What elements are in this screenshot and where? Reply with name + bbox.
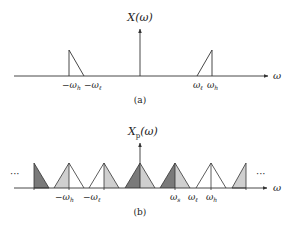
panel-a-x-label: ω [273, 70, 281, 81]
panel-b-tick-neg-wl: −ωℓ [83, 192, 101, 203]
panel-a: X(ω) ω −ωh −ωℓ ωℓ ωh (a) [14, 11, 281, 105]
panel-b-ellipsis-right: ··· [256, 168, 266, 179]
panel-a-tick-neg-wl: −ωℓ [84, 80, 102, 91]
panel-b-tick-wl: ωℓ [188, 192, 198, 203]
panel-b: ··· ··· Xp(ω) ω −ωh −ωℓ ωs ωℓ ωh (b) [10, 125, 281, 217]
panel-b-band-7 [232, 163, 246, 188]
panel-b-x-label: ω [273, 182, 281, 193]
panel-b-tick-neg-wh: −ωh [55, 192, 74, 203]
panel-a-positive-band [197, 50, 212, 76]
sampling-spectrum-diagram: X(ω) ω −ωh −ωℓ ωℓ ωh (a) [0, 0, 293, 227]
panel-b-y-label: Xp(ω) [127, 125, 158, 140]
panel-b-band-1 [34, 163, 49, 188]
panel-a-negative-band [69, 50, 84, 76]
panel-b-caption: (b) [134, 207, 147, 217]
panel-a-tick-wh: ωh [207, 80, 218, 91]
panel-b-tick-wh: ωh [206, 192, 217, 203]
panel-a-tick-neg-wh: −ωh [62, 80, 81, 91]
panel-a-tick-wl: ωℓ [193, 80, 203, 91]
panel-a-caption: (a) [134, 95, 146, 105]
panel-a-y-label: X(ω) [126, 11, 152, 24]
panel-b-tick-ws: ωs [170, 192, 180, 203]
panel-b-ellipsis-left: ··· [10, 168, 20, 179]
